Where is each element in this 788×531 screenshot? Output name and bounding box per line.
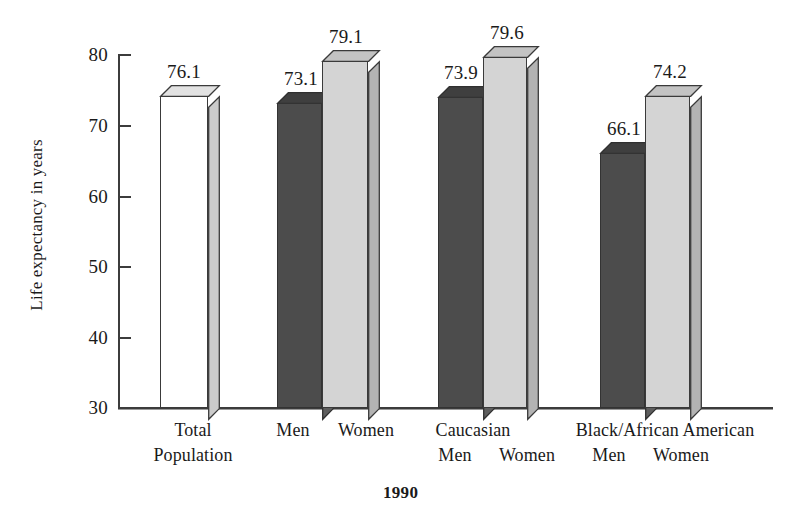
y-tick-70 [118, 125, 131, 127]
y-tick-80 [118, 54, 131, 56]
bar-total-population [160, 96, 208, 408]
category-label-caucasian: Caucasian [412, 420, 534, 441]
category-label-total: Total [138, 420, 248, 441]
y-axis-title: Life expectancy in years [27, 110, 47, 340]
bar-caucasian-men [438, 97, 483, 408]
y-tick-60 [118, 196, 131, 198]
bar-top-face [483, 46, 527, 57]
bar-top-face [645, 85, 690, 96]
bar-side-face [368, 61, 379, 408]
y-tick-label-40: 40 [62, 328, 108, 347]
bar-front-face [483, 57, 527, 408]
category-label-women-1: Women [323, 420, 409, 441]
x-axis-period-label: 1990 [383, 483, 418, 503]
bar-top-face [322, 50, 368, 61]
y-tick-40 [118, 337, 131, 339]
bar-top-face [438, 86, 483, 97]
bar-side-face [527, 57, 538, 408]
bar-side-face [690, 96, 701, 408]
bar-top-face [277, 92, 322, 103]
bar-black-women [645, 96, 690, 408]
bar-side-face [208, 96, 219, 408]
bar-front-face [160, 96, 208, 408]
category-label-women-2: Women [484, 445, 570, 466]
bar-value-women-all: 79.1 [306, 27, 386, 46]
bar-front-face [600, 153, 645, 408]
bar-value-caucasian-women: 79.6 [467, 23, 547, 42]
bar-front-face [322, 61, 368, 408]
y-tick-label-70: 70 [62, 116, 108, 135]
bar-front-face [277, 103, 322, 408]
category-label-men-2: Men [418, 445, 492, 466]
bar-chart: Life expectancy in years 80 70 60 50 40 … [0, 0, 788, 531]
category-label-population: Population [133, 445, 253, 466]
bar-men-all [277, 103, 322, 408]
bar-black-men [600, 153, 645, 408]
category-label-black-african-american: Black/African American [545, 420, 785, 441]
bar-women-all [322, 61, 368, 408]
y-tick-label-30: 30 [62, 398, 108, 417]
bar-value-black-women: 74.2 [630, 62, 710, 81]
category-label-men-1: Men [256, 420, 330, 441]
y-tick-label-50: 50 [62, 257, 108, 276]
category-label-women-3: Women [638, 445, 724, 466]
category-label-men-3: Men [572, 445, 646, 466]
bar-front-face [438, 97, 483, 408]
bar-front-face [645, 96, 690, 408]
y-tick-50 [118, 266, 131, 268]
bar-top-face [160, 85, 208, 96]
y-tick-label-80: 80 [62, 45, 108, 64]
bar-value-total-population: 76.1 [144, 62, 224, 81]
bar-caucasian-women [483, 57, 527, 408]
y-tick-label-60: 60 [62, 187, 108, 206]
y-axis-line [118, 54, 120, 409]
bar-top-face [600, 142, 645, 153]
